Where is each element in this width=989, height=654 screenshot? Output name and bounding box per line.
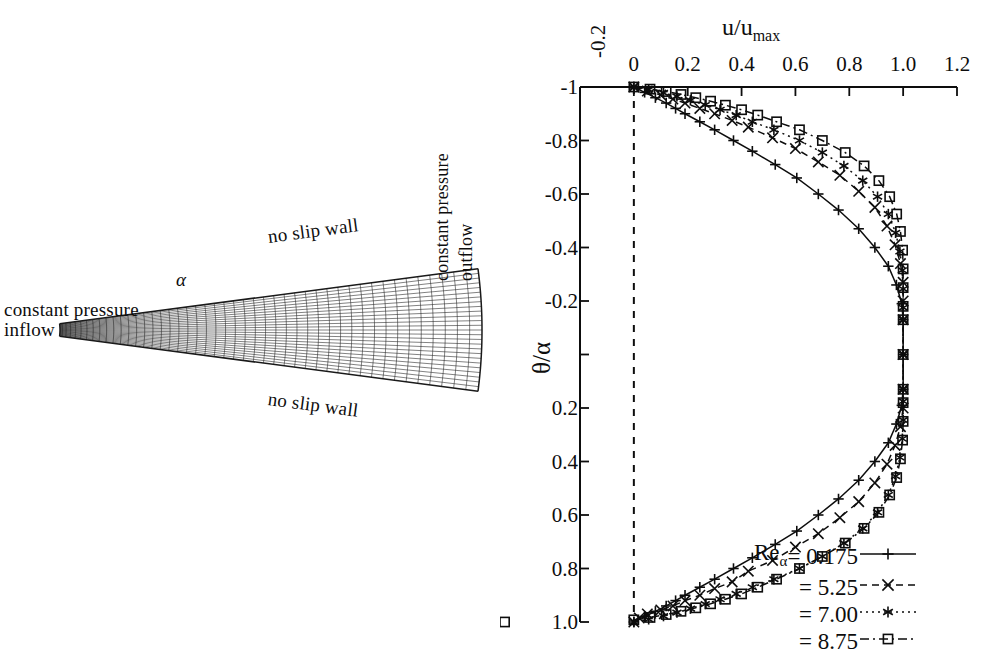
legend-series-key <box>858 628 922 654</box>
legend-key-square-icon <box>858 628 918 650</box>
legend-series-value: = 0.175 <box>787 540 857 574</box>
label-constant-pressure-inflow: constant pressure inflow <box>4 300 139 340</box>
legend-series-value: = 7.00 <box>787 601 857 628</box>
legend-key-plus-icon <box>858 543 918 565</box>
velocity-profile-plot: u/umax -0.2 θ/α 00.20.40.60.81.01.2 -1-0… <box>500 0 989 654</box>
legend-title-subscript: α <box>780 553 788 569</box>
legend-series-name: Reα <box>754 540 787 574</box>
label-constant-pressure-outflow: constant pressure <box>432 153 453 281</box>
label-alpha-angle: α <box>176 269 186 291</box>
legend-row: = 5.25 <box>754 574 922 601</box>
legend-series-key <box>858 540 922 574</box>
legend-series-name <box>754 628 787 654</box>
legend-series-name <box>754 601 787 628</box>
inflow-line-2: inflow <box>4 320 139 340</box>
legend-row: = 8.75 <box>754 628 922 654</box>
legend-series-value: = 8.75 <box>787 628 857 654</box>
legend-key-asterisk-icon <box>858 601 918 623</box>
legend-table: Reα= 0.175= 5.25= 7.00= 8.75 <box>754 540 922 654</box>
legend-series-value: = 5.25 <box>787 574 857 601</box>
legend-series-key <box>858 574 922 601</box>
label-outflow: outflow <box>456 224 477 281</box>
inflow-line-1: constant pressure <box>4 300 139 320</box>
legend-row: Reα= 0.175 <box>754 540 922 574</box>
chart-legend: Reα= 0.175= 5.25= 7.00= 8.75 <box>754 540 922 654</box>
legend-series-name <box>754 574 787 601</box>
legend-title: Re <box>754 540 780 565</box>
legend-row: = 7.00 <box>754 601 922 628</box>
figure-root: no slip wall no slip wall constant press… <box>0 0 989 654</box>
legend-key-x-icon <box>858 574 918 596</box>
legend-series-key <box>858 601 922 628</box>
